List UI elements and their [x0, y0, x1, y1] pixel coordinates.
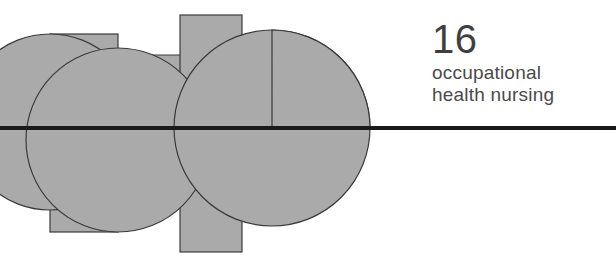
title-block: 16 occupational health nursing [432, 20, 608, 107]
chapter-title-line-1: occupational [432, 62, 608, 84]
chapter-number: 16 [432, 20, 608, 58]
chapter-title-line-2: health nursing [432, 84, 608, 106]
horizontal-rule [0, 126, 616, 130]
chapter-divider-page: 16 occupational health nursing [0, 0, 616, 261]
quarter-circle-upper-right [272, 30, 370, 128]
